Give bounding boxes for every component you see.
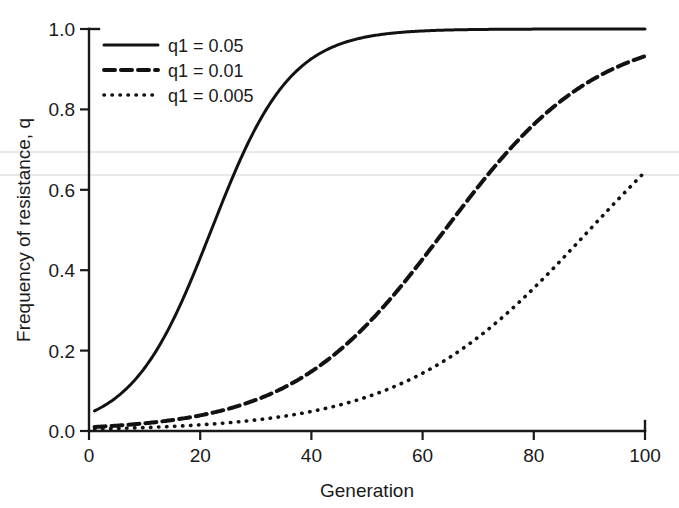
resistance-frequency-chart: 0.00.20.40.60.81.0 020406080100 Frequenc… <box>0 0 679 508</box>
x-tick-label-5: 100 <box>629 445 661 466</box>
x-tick-label-1: 20 <box>190 445 211 466</box>
y-tick-label-2: 0.4 <box>49 260 76 281</box>
legend-label-2: q1 = 0.005 <box>168 86 254 106</box>
x-tick-label-0: 0 <box>84 445 95 466</box>
y-tick-label-3: 0.6 <box>49 180 75 201</box>
y-tick-label-0: 0.0 <box>49 421 75 442</box>
x-tick-label-4: 80 <box>523 445 544 466</box>
legend-label-1: q1 = 0.01 <box>168 61 244 81</box>
chart-legend: q1 = 0.05q1 = 0.01q1 = 0.005 <box>104 36 254 106</box>
x-tick-label-3: 60 <box>412 445 433 466</box>
y-axis-title: Frequency of resistance, q <box>13 118 34 342</box>
y-tick-label-1: 0.2 <box>49 341 75 362</box>
legend-label-0: q1 = 0.05 <box>168 36 244 56</box>
y-tick-label-4: 0.8 <box>49 99 75 120</box>
x-axis-title: Generation <box>320 480 414 501</box>
x-tick-label-2: 40 <box>301 445 322 466</box>
y-tick-label-5: 1.0 <box>49 19 75 40</box>
